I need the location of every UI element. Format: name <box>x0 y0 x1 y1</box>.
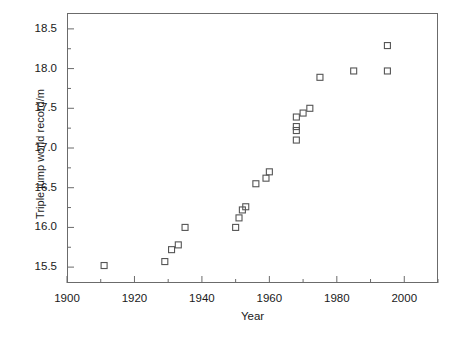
x-axis-tick-label: 1980 <box>324 293 350 305</box>
x-axis-tick-label: 2000 <box>391 293 417 305</box>
chart-figure: 15.516.016.517.017.518.018.5 19001920194… <box>0 0 450 340</box>
x-axis-tick-labels: 190019201940196019802000 <box>0 0 450 340</box>
x-axis-tick-label: 1940 <box>189 293 215 305</box>
x-axis-tick-label: 1960 <box>257 293 283 305</box>
x-axis-tick-label: 1900 <box>54 293 80 305</box>
x-axis-title: Year <box>67 310 438 322</box>
x-axis-tick-label: 1920 <box>122 293 148 305</box>
y-axis-title: Triple jump world record/m <box>34 29 46 279</box>
